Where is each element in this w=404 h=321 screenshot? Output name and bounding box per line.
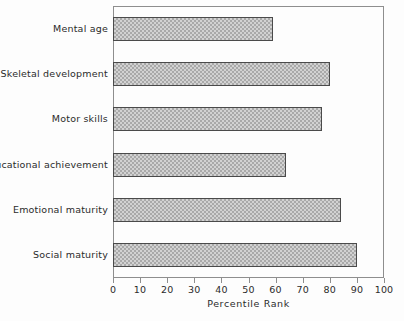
x-tick-label: 80 — [324, 284, 337, 295]
x-tick — [221, 278, 222, 283]
bar — [113, 107, 322, 131]
category-label: Emotional maturity — [13, 198, 108, 222]
bars-layer — [113, 6, 384, 278]
bar — [113, 198, 341, 222]
category-axis-labels: Mental ageSkeletal developmentMotor skil… — [0, 6, 110, 278]
bar-row — [113, 107, 322, 131]
x-tick — [276, 278, 277, 283]
category-label: Mental age — [53, 17, 108, 41]
x-tick-label: 10 — [134, 284, 147, 295]
x-tick-label: 70 — [296, 284, 309, 295]
x-tick — [357, 278, 358, 283]
x-tick-label: 90 — [351, 284, 364, 295]
bar — [113, 62, 330, 86]
bar-row — [113, 153, 286, 177]
category-label: Skeletal development — [1, 62, 108, 86]
x-tick — [384, 278, 385, 283]
x-tick-label: 50 — [242, 284, 255, 295]
bar-row — [113, 243, 357, 267]
bar-row — [113, 198, 341, 222]
x-tick — [140, 278, 141, 283]
category-label: Educational achievement — [0, 153, 108, 177]
bar-row — [113, 17, 273, 41]
x-axis-title: Percentile Rank — [113, 298, 384, 309]
x-tick-label: 60 — [269, 284, 282, 295]
x-tick — [194, 278, 195, 283]
x-tick-label: 20 — [161, 284, 174, 295]
x-tick-label: 30 — [188, 284, 201, 295]
x-tick-label: 40 — [215, 284, 228, 295]
percentile-rank-bar-chart: Mental ageSkeletal developmentMotor skil… — [0, 0, 404, 321]
bar — [113, 153, 286, 177]
bar — [113, 17, 273, 41]
x-tick — [303, 278, 304, 283]
x-tick-label: 0 — [110, 284, 116, 295]
bar — [113, 243, 357, 267]
x-tick — [167, 278, 168, 283]
x-tick — [330, 278, 331, 283]
category-label: Motor skills — [52, 107, 108, 131]
bar-row — [113, 62, 330, 86]
x-tick-label: 100 — [375, 284, 394, 295]
category-label: Social maturity — [33, 243, 108, 267]
x-tick — [249, 278, 250, 283]
x-tick — [113, 278, 114, 283]
